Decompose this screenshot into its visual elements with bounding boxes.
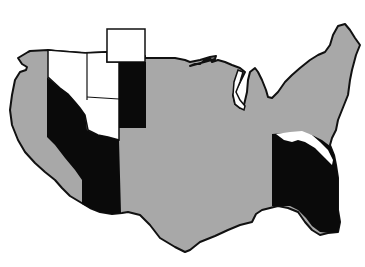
central-black-strip <box>119 62 146 128</box>
southeast-black-region <box>272 133 340 233</box>
north-white-box <box>107 29 145 62</box>
us-map <box>0 0 365 267</box>
